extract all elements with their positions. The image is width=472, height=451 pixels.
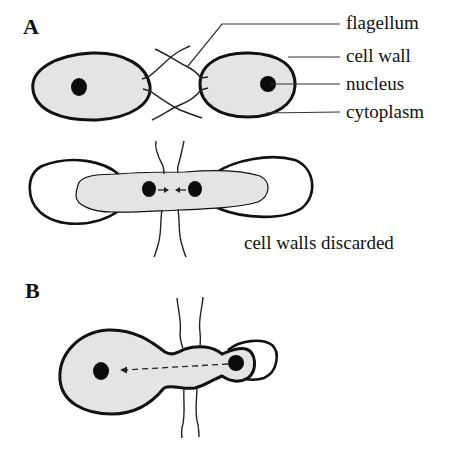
panel-letter-b: B (25, 278, 40, 303)
cell-left-walled (33, 53, 150, 120)
large-cell-fused-body (60, 330, 255, 414)
panel-b-cells (60, 297, 277, 438)
panel-letter-a: A (23, 14, 39, 39)
cell-right-walled (200, 53, 295, 117)
diagram-canvas: A flagellum cell wall nucleus cytoplasm (0, 0, 472, 451)
label-flagellum: flagellum (346, 12, 419, 33)
label-cytoplasm: cytoplasm (346, 101, 424, 122)
label-cell-wall: cell wall (346, 45, 411, 66)
nucleus-large (93, 362, 109, 380)
label-nucleus: nucleus (346, 73, 404, 94)
nucleus-fusing-left (142, 181, 156, 197)
caption-cell-walls-discarded: cell walls discarded (244, 232, 394, 253)
flagella-crossed (148, 46, 202, 120)
nucleus-left (71, 78, 87, 96)
fused-cytoplasm (76, 171, 268, 212)
nucleus-small (228, 355, 244, 371)
nucleus-fusing-right (188, 181, 202, 197)
